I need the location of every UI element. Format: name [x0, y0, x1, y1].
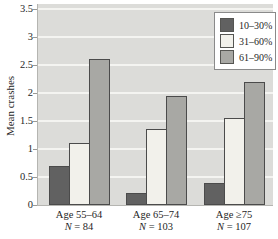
legend-swatch [220, 18, 234, 32]
y-tick-label: 2.5 [7, 59, 33, 71]
y-tick-mark [33, 9, 37, 10]
gridline [38, 8, 273, 10]
y-tick-label: 2 [7, 87, 33, 99]
x-category-n: N = 107 [184, 221, 278, 233]
bar-series-1-group-1 [146, 129, 167, 205]
y-tick-mark [33, 177, 37, 178]
bar-series-2-group-0 [89, 59, 110, 205]
bar-series-0-group-0 [49, 166, 70, 205]
y-tick-mark [33, 37, 37, 38]
bar-series-1-group-2 [224, 118, 245, 205]
legend-item: 10–30% [220, 18, 275, 32]
bar-series-1-group-0 [69, 143, 90, 205]
legend-label: 10–30% [239, 20, 272, 31]
y-tick-mark [33, 65, 37, 66]
legend-item: 31–60% [220, 34, 275, 48]
bar-series-0-group-1 [126, 193, 147, 205]
legend-swatch [220, 34, 234, 48]
legend-swatch [220, 50, 234, 64]
y-tick-label: 1.5 [7, 115, 33, 127]
bar-group [204, 82, 264, 205]
y-tick-label: 1 [7, 143, 33, 155]
bar-series-2-group-2 [244, 82, 265, 205]
x-category-label: Age ≥75N = 107 [184, 209, 278, 233]
bar-chart-figure: Mean crashes 10–30%31–60%61–90% 00.511.5… [0, 0, 278, 239]
bar-group [49, 59, 109, 205]
y-tick-label: 3 [7, 31, 33, 43]
legend: 10–30%31–60%61–90% [214, 12, 276, 70]
y-tick-label: 3.5 [7, 3, 33, 15]
legend-item: 61–90% [220, 50, 275, 64]
bar-group [126, 96, 186, 205]
legend-label: 61–90% [239, 52, 272, 63]
legend-label: 31–60% [239, 36, 272, 47]
y-tick-mark [33, 205, 37, 206]
y-tick-mark [33, 121, 37, 122]
y-tick-mark [33, 149, 37, 150]
x-category-name: Age ≥75 [184, 209, 278, 221]
bar-series-2-group-1 [166, 96, 187, 205]
bar-series-0-group-2 [204, 183, 225, 205]
y-axis-title: Mean crashes [4, 76, 16, 136]
y-tick-mark [33, 93, 37, 94]
y-tick-label: 0.5 [7, 171, 33, 183]
